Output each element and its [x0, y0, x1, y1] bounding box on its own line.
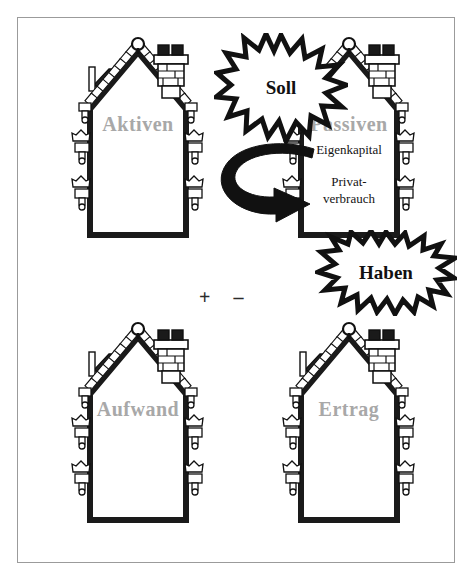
house-aufwand[interactable]: Aufwand: [62, 316, 214, 544]
figure-frame: Aktiven: [17, 17, 455, 563]
burst-soll[interactable]: Soll: [214, 33, 348, 147]
minus-sign: –: [233, 286, 252, 308]
house-aktiven[interactable]: Aktiven: [62, 31, 214, 259]
plus-sign: +: [199, 286, 219, 308]
house-ertrag[interactable]: Ertrag: [273, 316, 425, 544]
burst-haben[interactable]: Haben: [315, 230, 457, 316]
plus-minus-signs: +–: [115, 267, 252, 327]
diagram-stage: Aktiven: [18, 18, 454, 562]
